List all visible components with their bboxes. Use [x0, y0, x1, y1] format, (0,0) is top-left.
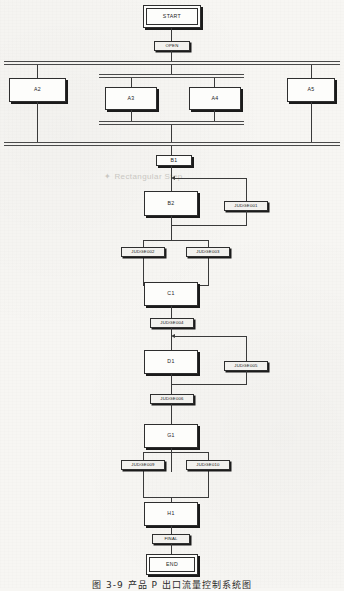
feedback-005-bottom	[171, 384, 247, 385]
step-b1: B1	[156, 155, 192, 166]
link-judge006-to-g1	[171, 404, 172, 424]
link-inner-join-to-outer-join	[171, 125, 172, 142]
transition-open-label: OPEN	[166, 44, 179, 48]
link-judge004-to-d1	[171, 328, 172, 350]
alt-split-009-010	[143, 452, 209, 453]
parallel-convergence-outer	[4, 142, 340, 146]
transition-judge010-label: JUDGE010	[196, 463, 219, 467]
step-h1: H1	[144, 502, 198, 526]
link-final-to-end	[171, 544, 172, 554]
transition-judge004-label: JUDGE004	[160, 321, 183, 325]
link-open-to-split	[171, 51, 172, 61]
step-b2-label: B2	[167, 201, 174, 206]
feedback-001-top	[175, 178, 247, 179]
transition-judge003-label: JUDGE003	[196, 250, 219, 254]
step-a4-label: A4	[211, 96, 218, 101]
watermark-mark: ✦	[104, 172, 111, 181]
transition-judge006: JUDGE006	[150, 394, 194, 404]
transition-judge009-label: JUDGE009	[131, 463, 154, 467]
alt-join-009-010	[143, 497, 209, 498]
step-end-label: END	[166, 562, 178, 567]
feedback-005-top	[175, 336, 247, 337]
link-inner-split-a4	[214, 78, 215, 87]
transition-judge002: JUDGE002	[121, 247, 165, 257]
step-c1-label: C1	[167, 291, 174, 296]
step-b2: B2	[144, 191, 198, 216]
feedback-001-right-lower	[246, 211, 247, 225]
transition-judge010: JUDGE010	[186, 460, 230, 470]
parallel-divergence-outer	[4, 61, 340, 65]
step-g1-label: G1	[167, 433, 175, 438]
transition-final-label: FINAL	[164, 537, 177, 541]
link-a3-to-inner-join	[131, 110, 132, 121]
link-start-to-open	[171, 28, 172, 41]
step-d1-label: D1	[167, 359, 174, 364]
step-c1: C1	[144, 282, 198, 306]
parallel-divergence-inner	[99, 74, 244, 78]
transition-judge006-label: JUDGE006	[160, 397, 183, 401]
link-a5-to-join	[311, 102, 312, 142]
step-g1: G1	[144, 424, 198, 448]
link-outer-split-nested	[171, 65, 172, 74]
transition-judge001-label: JUDGE001	[234, 204, 257, 208]
link-a4-to-inner-join	[214, 110, 215, 121]
transition-judge004: JUDGE004	[150, 318, 194, 328]
transition-judge003: JUDGE003	[186, 247, 230, 257]
link-outer-split-a5	[311, 65, 312, 78]
step-end: END	[146, 554, 198, 575]
link-a2-to-join	[37, 102, 38, 142]
step-start-label: START	[163, 14, 181, 19]
figure-caption: 图 3-9 产品 P 出口流量控制系统图	[0, 578, 344, 591]
link-h1-to-final	[171, 526, 172, 534]
step-b1-label: B1	[170, 158, 177, 163]
step-a5: A5	[287, 78, 335, 102]
step-d1: D1	[144, 350, 198, 374]
link-inner-split-a3	[131, 78, 132, 87]
step-a3-label: A3	[127, 96, 134, 101]
link-c1-to-judge004	[171, 306, 172, 318]
link-d1-to-judge006	[171, 374, 172, 394]
transition-judge009: JUDGE009	[121, 460, 165, 470]
feedback-005-arrowhead-icon	[171, 334, 175, 338]
link-outer-join-to-b1	[171, 146, 172, 155]
alt-left-009	[143, 452, 144, 497]
step-a4: A4	[189, 87, 241, 110]
transition-open: OPEN	[154, 41, 190, 51]
feedback-001-arrowhead-icon	[171, 176, 175, 180]
step-a5-label: A5	[307, 87, 314, 92]
step-start: START	[143, 5, 201, 28]
transition-judge005: JUDGE005	[224, 361, 268, 371]
link-b2-down	[171, 216, 172, 240]
transition-judge002-label: JUDGE002	[131, 250, 154, 254]
step-a2-label: A2	[34, 87, 41, 92]
alt-split-002-003	[143, 240, 209, 241]
step-h1-label: H1	[167, 511, 174, 516]
feedback-001-right	[246, 178, 247, 201]
transition-judge005-label: JUDGE005	[234, 364, 257, 368]
feedback-001-bottom	[171, 225, 247, 226]
transition-judge001: JUDGE001	[224, 201, 268, 211]
feedback-005-right-lower	[246, 371, 247, 384]
feedback-005-right	[246, 336, 247, 361]
alt-right-010	[208, 452, 209, 497]
link-outer-split-a2	[37, 65, 38, 78]
step-a3: A3	[105, 87, 157, 110]
step-a2: A2	[9, 78, 66, 102]
transition-final: FINAL	[152, 534, 190, 544]
